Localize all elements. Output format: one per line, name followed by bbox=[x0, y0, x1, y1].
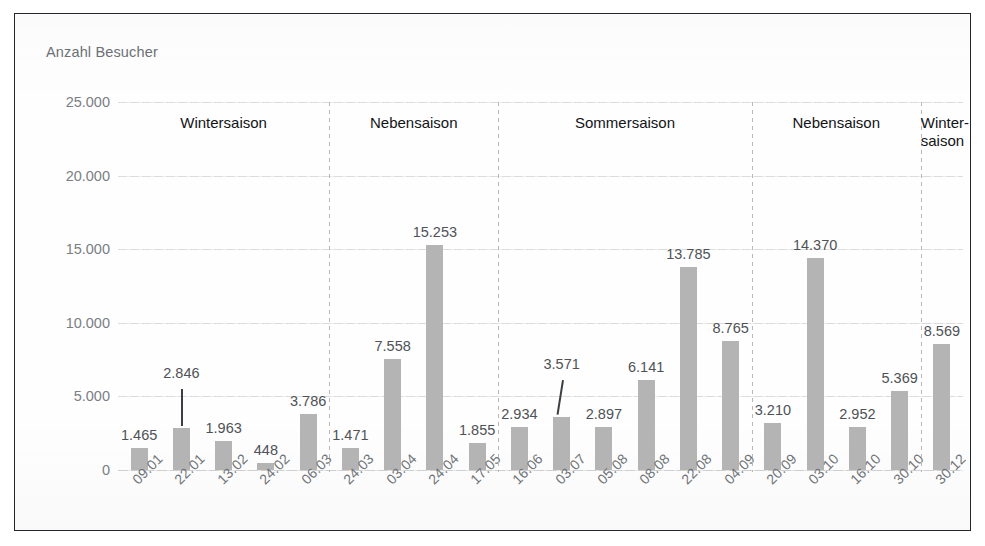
season-divider bbox=[329, 102, 330, 472]
label-leader-line bbox=[556, 380, 563, 415]
season-divider bbox=[498, 102, 499, 472]
y-axis-tick-label: 0 bbox=[22, 462, 110, 478]
season-label: Winter- saison bbox=[921, 114, 963, 150]
chart-title: Anzahl Besucher bbox=[46, 44, 158, 60]
bar-value-label: 3.210 bbox=[755, 402, 791, 418]
bar[interactable] bbox=[807, 258, 824, 470]
bar-value-label: 2.952 bbox=[839, 406, 875, 422]
season-label: Wintersaison bbox=[118, 114, 329, 132]
season-divider bbox=[921, 102, 922, 472]
chart-frame: Anzahl Besucher 25.00020.00015.00010.000… bbox=[14, 13, 971, 531]
gridline bbox=[118, 102, 963, 103]
bar-value-label: 3.786 bbox=[290, 393, 326, 409]
season-label: Sommersaison bbox=[498, 114, 752, 132]
x-axis: 09.0122.0113.0224.0206.0324.0303.0424.04… bbox=[118, 470, 963, 540]
bar-value-label: 7.558 bbox=[374, 338, 410, 354]
bar-value-label: 8.569 bbox=[924, 323, 960, 339]
bar[interactable] bbox=[426, 245, 443, 470]
bar-value-label: 13.785 bbox=[666, 246, 710, 262]
bar[interactable] bbox=[638, 380, 655, 470]
season-label: Nebensaison bbox=[329, 114, 498, 132]
y-axis: 25.00020.00015.00010.0005.0000 bbox=[15, 102, 110, 470]
bar-value-label: 6.141 bbox=[628, 359, 664, 375]
bar-value-label: 8.765 bbox=[712, 320, 748, 336]
y-axis-tick-label: 10.000 bbox=[22, 315, 110, 331]
bar-value-label: 2.934 bbox=[501, 406, 537, 422]
season-label: Nebensaison bbox=[752, 114, 921, 132]
bar[interactable] bbox=[891, 391, 908, 470]
season-divider bbox=[752, 102, 753, 472]
bar-value-label: 2.897 bbox=[586, 406, 622, 422]
bar-value-label: 14.370 bbox=[793, 237, 837, 253]
bar[interactable] bbox=[384, 359, 401, 470]
y-axis-tick-label: 5.000 bbox=[22, 388, 110, 404]
gridline bbox=[118, 323, 963, 324]
y-axis-tick-label: 15.000 bbox=[22, 241, 110, 257]
bar-value-label: 5.369 bbox=[881, 370, 917, 386]
bar-value-label: 1.471 bbox=[332, 427, 368, 443]
gridline bbox=[118, 176, 963, 177]
y-axis-tick-label: 20.000 bbox=[22, 168, 110, 184]
plot-area: 1.4652.8461.9634483.7861.4717.55815.2531… bbox=[118, 102, 963, 470]
bar-value-label: 3.571 bbox=[543, 356, 579, 372]
gridline bbox=[118, 396, 963, 397]
bar-value-label: 2.846 bbox=[163, 365, 199, 381]
y-axis-tick-label: 25.000 bbox=[22, 94, 110, 110]
bar[interactable] bbox=[680, 267, 697, 470]
bar[interactable] bbox=[722, 341, 739, 470]
bar-value-label: 1.465 bbox=[121, 427, 157, 443]
bar[interactable] bbox=[933, 344, 950, 470]
bar-value-label: 1.963 bbox=[205, 420, 241, 436]
bar-value-label: 1.855 bbox=[459, 422, 495, 438]
label-leader-line bbox=[181, 389, 183, 426]
bar-value-label: 15.253 bbox=[413, 224, 457, 240]
